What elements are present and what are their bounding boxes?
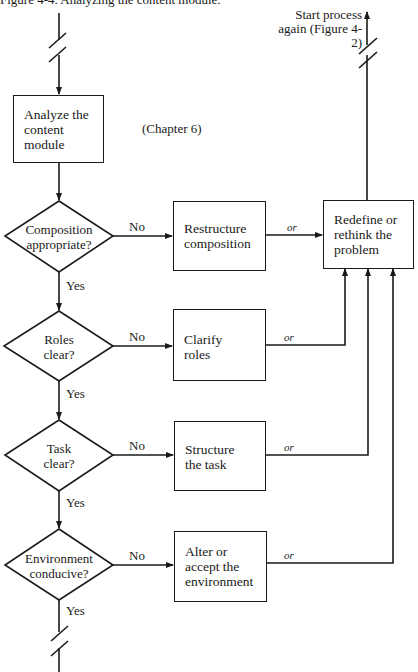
no-label: No <box>129 548 145 564</box>
box-line: the task <box>185 457 235 472</box>
decision-line: Roles <box>14 332 104 347</box>
box-line: rethink the <box>334 227 397 242</box>
box-line: module <box>24 137 89 152</box>
yes-label: Yes <box>66 603 85 619</box>
decision-line: clear? <box>14 456 104 471</box>
decision-line: appropriate? <box>14 237 104 252</box>
start-again-label: Start process again (Figure 4-2) <box>276 8 362 50</box>
restructure-composition-box: Restructure composition <box>173 201 266 271</box>
yes-label: Yes <box>66 278 85 294</box>
decision-line: conducive? <box>10 566 108 581</box>
yes-label: Yes <box>66 495 85 511</box>
or-label: or <box>284 331 294 343</box>
alter-environment-box: Alter or accept the environment <box>174 531 267 602</box>
break-mark <box>49 47 66 62</box>
box-line: content <box>24 122 89 137</box>
decision-line: Environment <box>10 551 108 566</box>
no-label: No <box>129 219 145 235</box>
box-line: Redefine or <box>334 212 397 227</box>
box-line: Analyze the <box>24 107 89 122</box>
break-mark <box>49 33 66 48</box>
start-again-line: again (Figure 4-2) <box>276 22 362 50</box>
chapter-note: (Chapter 6) <box>142 121 202 137</box>
analyze-content-module-box: Analyze the content module <box>13 95 104 163</box>
or-label: or <box>287 221 297 233</box>
decision-label-roles: Roles clear? <box>14 332 104 362</box>
decision-line: Task <box>14 441 104 456</box>
decision-line: Composition <box>14 222 104 237</box>
box-line: environment <box>185 574 253 589</box>
box-line: Clarify <box>184 332 222 347</box>
clarify-roles-box: Clarify roles <box>173 309 266 381</box>
or-label: or <box>284 549 294 561</box>
decision-line: clear? <box>14 347 104 362</box>
no-label: No <box>129 329 145 345</box>
decision-label-task: Task clear? <box>14 441 104 471</box>
decision-label-environment: Environment conducive? <box>10 551 108 581</box>
box-line: Alter or <box>185 544 253 559</box>
or-label: or <box>284 441 294 453</box>
box-line: roles <box>184 347 222 362</box>
start-again-line: Start process <box>276 8 362 22</box>
box-line: problem <box>334 242 397 257</box>
structure-task-box: Structure the task <box>174 421 266 491</box>
redefine-problem-box: Redefine or rethink the problem <box>323 200 414 269</box>
box-line: Restructure <box>184 221 251 236</box>
box-line: accept the <box>185 559 253 574</box>
decision-label-composition: Composition appropriate? <box>14 222 104 252</box>
box-line: composition <box>184 236 251 251</box>
no-label: No <box>129 438 145 454</box>
box-line: Structure <box>185 442 235 457</box>
yes-label: Yes <box>66 386 85 402</box>
